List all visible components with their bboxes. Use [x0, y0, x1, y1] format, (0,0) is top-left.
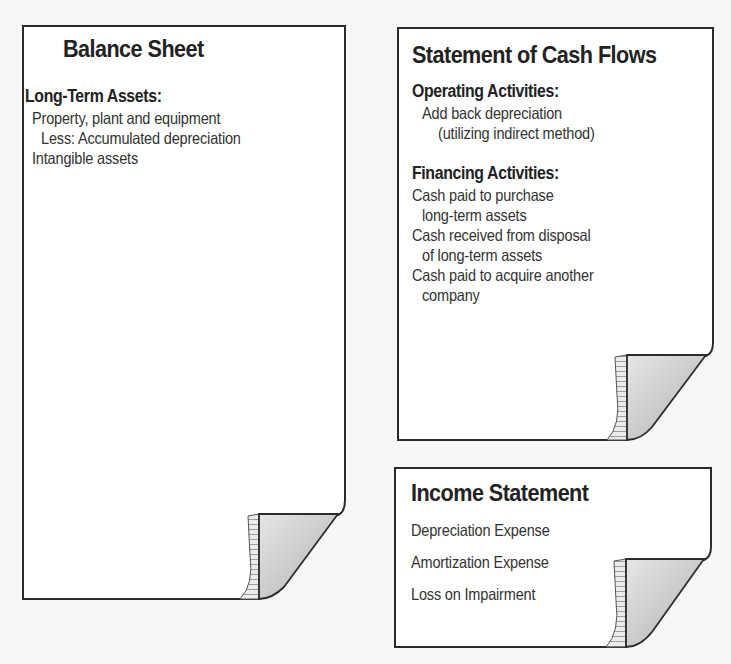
financing-item: Cash paid to acquire another — [412, 266, 594, 285]
income-statement-card: Income Statement Depreciation Expense Am… — [394, 467, 712, 648]
financing-activities-heading: Financing Activities: — [412, 163, 559, 184]
financing-item: company — [422, 286, 480, 305]
operating-item: Add back depreciation — [422, 104, 562, 123]
income-statement-title: Income Statement — [411, 479, 588, 507]
financing-item: long-term assets — [422, 206, 527, 225]
balance-item: Less: Accumulated depreciation — [41, 129, 241, 148]
balance-sheet-title: Balance Sheet — [63, 35, 204, 63]
cash-flows-card: Statement of Cash Flows Operating Activi… — [397, 27, 714, 441]
long-term-assets-heading: Long-Term Assets: — [25, 86, 162, 107]
operating-item: (utilizing indirect method) — [438, 124, 595, 143]
financing-item: Cash paid to purchase — [412, 186, 554, 205]
income-item: Amortization Expense — [411, 553, 549, 572]
balance-item: Property, plant and equipment — [32, 109, 220, 128]
financing-item: of long-term assets — [422, 246, 542, 265]
income-item: Loss on Impairment — [411, 585, 535, 604]
operating-activities-heading: Operating Activities: — [412, 81, 559, 102]
financing-item: Cash received from disposal — [412, 226, 590, 245]
income-item: Depreciation Expense — [411, 521, 550, 540]
balance-item: Intangible assets — [32, 149, 138, 168]
balance-sheet-card: Balance Sheet Long-Term Assets: Property… — [22, 25, 346, 600]
cash-flows-title: Statement of Cash Flows — [412, 41, 656, 69]
